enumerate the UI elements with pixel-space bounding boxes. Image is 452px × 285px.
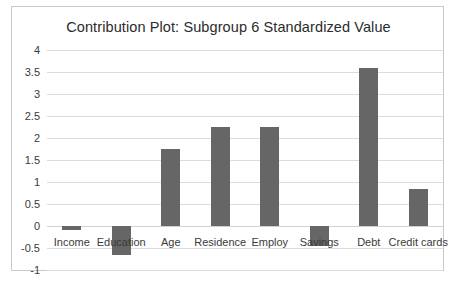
bar: [260, 127, 279, 226]
bar: [409, 189, 428, 226]
y-axis-tick-label: 3.5: [25, 66, 40, 78]
y-axis-tick-label: 1.5: [25, 154, 40, 166]
bar: [161, 149, 180, 226]
y-axis-tick-label: 0.5: [25, 198, 40, 210]
y-axis-tick-label: 0: [34, 220, 40, 232]
bar: [211, 127, 230, 226]
y-axis-tick-label: 2.5: [25, 110, 40, 122]
y-axis-tick-label: 1: [34, 176, 40, 188]
y-axis-tick-label: -0.5: [21, 242, 40, 254]
y-axis-tick-label: 4: [34, 44, 40, 56]
x-axis-category-labels: IncomeEducationAgeResidenceEmploySavings…: [47, 236, 443, 270]
y-axis-tick-label: 3: [34, 88, 40, 100]
bar: [359, 68, 378, 226]
chart-frame: Contribution Plot: Subgroup 6 Standardiz…: [11, 6, 444, 271]
chart-title: Contribution Plot: Subgroup 6 Standardiz…: [12, 19, 445, 35]
bar: [62, 226, 81, 230]
gridline: [47, 270, 443, 271]
y-axis-tick-label: -1: [30, 264, 40, 276]
x-axis-category-label: Credit cards: [387, 236, 449, 249]
y-axis-tick-label: 2: [34, 132, 40, 144]
